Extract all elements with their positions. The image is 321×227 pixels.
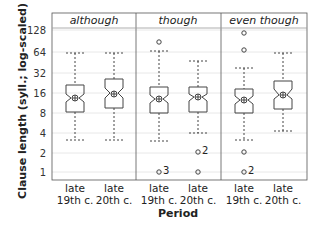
outlier-count-label: 3 xyxy=(163,165,169,176)
y-tick: 4 xyxy=(40,128,46,139)
y-tick: 64 xyxy=(33,47,46,58)
y-tick: 2 xyxy=(40,148,46,159)
panel-label-even-though: even though xyxy=(229,14,298,27)
x-category-label: late xyxy=(273,182,293,194)
y-tick-labels: 128 64 32 16 8 4 2 1 xyxy=(27,25,46,178)
box-although-19th xyxy=(66,53,84,140)
x-axis-label: Period xyxy=(158,207,198,220)
y-tick: 32 xyxy=(33,68,46,79)
panel-frames xyxy=(52,13,307,180)
x-category-label: late xyxy=(104,182,124,194)
panel-label-though: though xyxy=(159,14,198,27)
panel-label-although: although xyxy=(70,14,119,27)
x-category-label: 20th c. xyxy=(180,194,217,206)
boxplot-chart: Clause length (syll.; log-scaled) 128 64… xyxy=(0,0,321,227)
x-category-label: 19th c. xyxy=(226,194,263,206)
x-category-label: late xyxy=(234,182,254,194)
y-tick: 128 xyxy=(27,25,46,36)
y-tick: 8 xyxy=(40,108,46,119)
box-though-20th xyxy=(189,61,207,174)
box-although-20th xyxy=(105,53,123,140)
x-category-labels: late 19th c. late 20th c. late 19th c. l… xyxy=(57,182,302,206)
y-tick: 1 xyxy=(40,167,46,178)
y-tick: 16 xyxy=(33,88,46,99)
outlier-count-label: 2 xyxy=(248,165,254,176)
box-even-though-20th xyxy=(274,53,292,131)
x-category-label: late xyxy=(149,182,169,194)
outlier-count-label: 2 xyxy=(202,145,208,156)
x-category-label: late xyxy=(188,182,208,194)
x-category-label: 19th c. xyxy=(57,194,94,206)
x-category-label: 20th c. xyxy=(265,194,302,206)
x-category-label: late xyxy=(65,182,85,194)
x-category-label: 19th c. xyxy=(141,194,178,206)
box-though-19th xyxy=(150,40,168,174)
gridlines xyxy=(52,30,307,172)
x-category-label: 20th c. xyxy=(96,194,133,206)
